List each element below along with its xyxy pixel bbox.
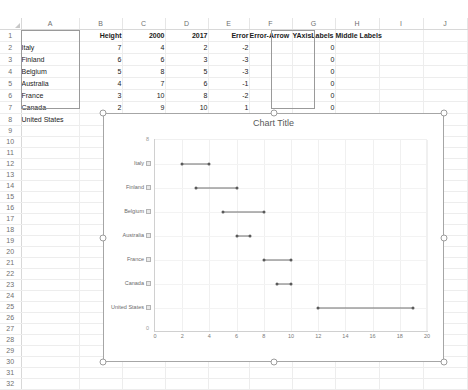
column-header-f[interactable]: F <box>249 18 292 29</box>
row-header-10[interactable]: 10 <box>0 136 21 147</box>
cell-empty-r15-c1[interactable] <box>21 191 79 202</box>
cell-h4[interactable] <box>335 65 379 77</box>
cell-d6[interactable]: 8 <box>165 89 208 101</box>
cell-i4[interactable] <box>379 65 423 77</box>
cell-g2[interactable]: 0 <box>292 41 335 53</box>
row-header-11[interactable]: 11 <box>0 147 21 158</box>
cell-d4[interactable]: 5 <box>165 65 208 77</box>
handle-bottom-right[interactable] <box>441 359 448 366</box>
cell-empty-r32-c6[interactable] <box>249 378 292 389</box>
cell-empty-r31-c9[interactable] <box>379 367 423 378</box>
cell-h7[interactable] <box>335 101 379 113</box>
column-header-g[interactable]: G <box>292 18 335 29</box>
cell-empty-r32-c1[interactable] <box>21 378 79 389</box>
row-header-14[interactable]: 14 <box>0 180 21 191</box>
cell-d5[interactable]: 6 <box>165 77 208 89</box>
cell-a2[interactable]: Italy <box>21 41 79 53</box>
row-header-16[interactable]: 16 <box>0 202 21 213</box>
row-header-31[interactable]: 31 <box>0 367 21 378</box>
cell-i3[interactable] <box>379 53 423 65</box>
row-header-20[interactable]: 20 <box>0 246 21 257</box>
row-header-2[interactable]: 2 <box>0 41 21 53</box>
cell-empty-r31-c8[interactable] <box>335 367 379 378</box>
cell-j4[interactable] <box>423 65 467 77</box>
cell-empty-r11-c1[interactable] <box>21 147 79 158</box>
cell-b2[interactable]: 7 <box>79 41 122 53</box>
row-header-29[interactable]: 29 <box>0 345 21 356</box>
cell-h2[interactable] <box>335 41 379 53</box>
column-header-c[interactable]: C <box>122 18 165 29</box>
row-header-6[interactable]: 6 <box>0 89 21 101</box>
column-header-d[interactable]: D <box>165 18 208 29</box>
handle-bottom-center[interactable] <box>270 359 277 366</box>
cell-empty-r22-c1[interactable] <box>21 268 79 279</box>
cell-empty-r19-c1[interactable] <box>21 235 79 246</box>
cell-f5[interactable] <box>249 77 292 89</box>
cell-empty-r23-c1[interactable] <box>21 279 79 290</box>
cell-empty-r31-c1[interactable] <box>21 367 79 378</box>
cell-empty-r10-c1[interactable] <box>21 136 79 147</box>
cell-a3[interactable]: Finland <box>21 53 79 65</box>
cell-e1[interactable]: Error <box>208 29 249 41</box>
row-header-25[interactable]: 25 <box>0 301 21 312</box>
cell-h3[interactable] <box>335 53 379 65</box>
cell-empty-r12-c1[interactable] <box>21 158 79 169</box>
cell-h6[interactable] <box>335 89 379 101</box>
cell-empty-r9-c1[interactable] <box>21 125 79 136</box>
cell-f4[interactable] <box>249 65 292 77</box>
column-header-h[interactable]: H <box>335 18 379 29</box>
cell-c2[interactable]: 4 <box>122 41 165 53</box>
row-header-7[interactable]: 7 <box>0 101 21 113</box>
cell-a7[interactable]: Canada <box>21 101 79 113</box>
cell-empty-r31-c5[interactable] <box>208 367 249 378</box>
cell-d3[interactable]: 3 <box>165 53 208 65</box>
handle-bottom-left[interactable] <box>100 359 107 366</box>
cell-g4[interactable]: 0 <box>292 65 335 77</box>
row-header-23[interactable]: 23 <box>0 279 21 290</box>
cell-empty-r29-c1[interactable] <box>21 345 79 356</box>
cell-empty-r21-c1[interactable] <box>21 257 79 268</box>
row-header-1[interactable]: 1 <box>0 29 21 41</box>
cell-empty-r27-c1[interactable] <box>21 323 79 334</box>
row-header-5[interactable]: 5 <box>0 77 21 89</box>
cell-empty-r30-c1[interactable] <box>21 356 79 367</box>
cell-e5[interactable]: -1 <box>208 77 249 89</box>
cell-empty-r24-c1[interactable] <box>21 290 79 301</box>
row-header-32[interactable]: 32 <box>0 378 21 389</box>
cell-empty-r31-c3[interactable] <box>122 367 165 378</box>
cell-empty-r31-c6[interactable] <box>249 367 292 378</box>
chart-object[interactable]: Chart Title 8 0 ItalyFinlandBelgiumAustr… <box>103 113 444 362</box>
cell-empty-r32-c4[interactable] <box>165 378 208 389</box>
row-header-4[interactable]: 4 <box>0 65 21 77</box>
cell-empty-r17-c1[interactable] <box>21 213 79 224</box>
handle-middle-right[interactable] <box>441 234 448 241</box>
column-header-i[interactable]: I <box>379 18 423 29</box>
handle-top-left[interactable] <box>100 110 107 117</box>
cell-c5[interactable]: 7 <box>122 77 165 89</box>
cell-g3[interactable]: 0 <box>292 53 335 65</box>
cell-empty-r14-c1[interactable] <box>21 180 79 191</box>
column-header-b[interactable]: B <box>79 18 122 29</box>
row-header-15[interactable]: 15 <box>0 191 21 202</box>
row-header-13[interactable]: 13 <box>0 169 21 180</box>
row-header-22[interactable]: 22 <box>0 268 21 279</box>
cell-empty-r31-c2[interactable] <box>79 367 122 378</box>
select-all-corner[interactable] <box>0 18 21 29</box>
column-header-a[interactable]: A <box>21 18 79 29</box>
row-header-18[interactable]: 18 <box>0 224 21 235</box>
cell-g1[interactable]: YAxisLabels <box>292 29 335 41</box>
cell-j2[interactable] <box>423 41 467 53</box>
cell-e6[interactable]: -2 <box>208 89 249 101</box>
cell-e3[interactable]: -3 <box>208 53 249 65</box>
row-header-3[interactable]: 3 <box>0 53 21 65</box>
cell-d2[interactable]: 2 <box>165 41 208 53</box>
cell-empty-r32-c5[interactable] <box>208 378 249 389</box>
cell-empty-r26-c1[interactable] <box>21 312 79 323</box>
cell-g6[interactable]: 0 <box>292 89 335 101</box>
cell-i7[interactable] <box>379 101 423 113</box>
row-header-28[interactable]: 28 <box>0 334 21 345</box>
cell-empty-r32-c8[interactable] <box>335 378 379 389</box>
cell-a6[interactable]: France <box>21 89 79 101</box>
cell-empty-r25-c1[interactable] <box>21 301 79 312</box>
cell-i5[interactable] <box>379 77 423 89</box>
